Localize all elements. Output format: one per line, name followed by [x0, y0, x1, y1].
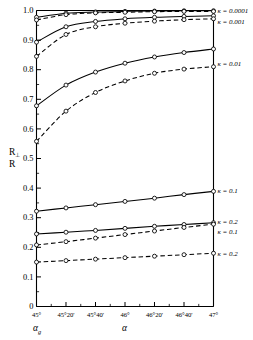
- data-point-marker: [64, 32, 68, 36]
- data-point-marker: [182, 253, 186, 257]
- data-point-marker: [123, 21, 127, 25]
- data-point-marker: [212, 222, 216, 226]
- data-point-marker: [182, 18, 186, 22]
- series-annotation-label: κ = 0.2: [218, 218, 239, 226]
- data-point-marker: [35, 40, 39, 44]
- data-point-marker: [212, 189, 216, 193]
- data-point-marker: [152, 196, 156, 200]
- data-point-marker: [123, 256, 127, 260]
- data-point-marker: [94, 228, 98, 232]
- chart-figure: 00.10.20.30.40.50.60.70.80.91.045°45°20'…: [0, 0, 253, 340]
- y-tick-label: 1.0: [23, 6, 33, 15]
- data-point-marker: [64, 230, 68, 234]
- data-point-marker: [152, 224, 156, 228]
- data-point-marker: [212, 47, 216, 51]
- data-point-marker: [94, 25, 98, 29]
- series-annotation-label: κ = 0.1: [218, 187, 238, 195]
- data-point-marker: [123, 10, 127, 14]
- data-point-marker: [182, 225, 186, 229]
- x-tick-label: 45°20': [57, 311, 74, 318]
- data-point-marker: [35, 54, 39, 58]
- data-point-marker: [123, 17, 127, 21]
- data-point-marker: [64, 240, 68, 244]
- data-point-marker: [35, 209, 39, 213]
- series-line: [37, 49, 214, 106]
- y-tick-label: 0.3: [23, 213, 33, 222]
- series-line: [37, 67, 214, 142]
- data-point-marker: [152, 19, 156, 23]
- data-point-marker: [212, 9, 216, 13]
- series-annotation-label: κ = 0.001: [218, 18, 245, 26]
- data-point-marker: [35, 260, 39, 264]
- data-point-marker: [212, 251, 216, 255]
- svg-text:R: R: [9, 159, 16, 169]
- data-point-marker: [182, 9, 186, 13]
- data-point-marker: [94, 90, 98, 94]
- data-point-marker: [152, 15, 156, 19]
- series-annotation-label: κ = 0.0001: [218, 7, 249, 15]
- data-point-marker: [152, 10, 156, 14]
- data-point-marker: [123, 79, 127, 83]
- series-annotation-label: κ = 0.2: [218, 250, 239, 258]
- data-point-marker: [94, 11, 98, 15]
- data-point-marker: [64, 206, 68, 210]
- data-point-marker: [64, 109, 68, 113]
- data-point-marker: [64, 25, 68, 29]
- data-point-marker: [152, 55, 156, 59]
- y-tick-label: 0.4: [23, 184, 34, 193]
- x-tick-label: 45°40': [87, 311, 104, 318]
- y-tick-label: 0.7: [23, 95, 33, 104]
- data-point-marker: [35, 104, 39, 108]
- y-tick-label: 0.8: [23, 65, 33, 74]
- data-point-marker: [35, 232, 39, 236]
- x-axis-title-center: α: [122, 323, 128, 333]
- data-point-marker: [94, 257, 98, 261]
- x-tick-label: 47°: [209, 311, 219, 318]
- data-point-marker: [123, 199, 127, 203]
- data-point-marker: [64, 259, 68, 263]
- x-tick-label: 46°40': [175, 311, 192, 318]
- data-point-marker: [212, 65, 216, 69]
- x-tick-label: 46°: [120, 311, 130, 318]
- line-chart: 00.10.20.30.40.50.60.70.80.91.045°45°20'…: [0, 0, 253, 340]
- series-annotation-label: κ = 0.01: [218, 60, 242, 68]
- svg-text:R⊥: R⊥: [9, 147, 20, 158]
- y-tick-label: 0.6: [23, 125, 33, 134]
- data-point-marker: [64, 13, 68, 17]
- x-axis-title-left: αg: [33, 323, 42, 335]
- data-point-marker: [123, 61, 127, 65]
- y-tick-label: 0.2: [23, 243, 33, 252]
- y-tick-label: 0.9: [23, 36, 33, 45]
- data-point-marker: [94, 19, 98, 23]
- y-tick-label: 0.1: [23, 273, 33, 282]
- x-tick-label: 45°: [32, 311, 42, 318]
- data-point-marker: [64, 83, 68, 87]
- y-tick-label: 0.5: [23, 154, 33, 163]
- data-point-marker: [94, 236, 98, 240]
- data-point-marker: [35, 139, 39, 143]
- data-point-marker: [152, 71, 156, 75]
- x-tick-label: 46°20': [146, 311, 163, 318]
- data-point-marker: [182, 67, 186, 71]
- data-point-marker: [94, 203, 98, 207]
- data-point-marker: [212, 17, 216, 21]
- data-point-marker: [152, 229, 156, 233]
- data-point-marker: [94, 70, 98, 74]
- data-point-marker: [35, 18, 39, 22]
- data-point-marker: [182, 193, 186, 197]
- data-point-marker: [123, 226, 127, 230]
- series-annotation-label: κ = 0.1: [218, 228, 238, 236]
- data-point-marker: [35, 243, 39, 247]
- data-point-marker: [123, 233, 127, 237]
- data-point-marker: [182, 51, 186, 55]
- data-point-marker: [152, 254, 156, 258]
- y-axis-title: R⊥R: [9, 147, 20, 169]
